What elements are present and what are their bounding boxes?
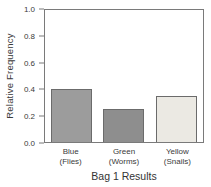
y-tick-label: 0.4 [24, 85, 35, 94]
x-category-label: Yellow(Snails) [151, 147, 204, 167]
bar-yellow [156, 96, 197, 142]
chart-title: Bag 1 Results [44, 170, 204, 182]
x-category-label: Green(Worms) [97, 147, 150, 167]
x-category-name: Yellow [151, 147, 204, 157]
y-axis-ticks: 1.00.80.60.40.20.0 [0, 9, 44, 143]
bar-green [103, 109, 144, 142]
x-category-label: Blue(Flies) [44, 147, 97, 167]
x-category-sublabel: (Flies) [44, 157, 97, 167]
y-tick-label: 1.0 [24, 5, 35, 14]
y-tick-label: 0.8 [24, 31, 35, 40]
x-category-sublabel: (Snails) [151, 157, 204, 167]
x-category-name: Green [97, 147, 150, 157]
bar-blue [51, 89, 92, 142]
x-axis-labels: Blue(Flies)Green(Worms)Yellow(Snails) [44, 147, 204, 167]
x-category-sublabel: (Worms) [97, 157, 150, 167]
x-category-name: Blue [44, 147, 97, 157]
y-tick-label: 0.6 [24, 58, 35, 67]
bar-chart-figure: Relative Frequency 1.00.80.60.40.20.0 Bl… [0, 0, 211, 187]
y-tick-label: 0.2 [24, 112, 35, 121]
y-tick-label: 0.0 [24, 139, 35, 148]
plot-area [44, 9, 204, 143]
bars-container [45, 10, 203, 142]
